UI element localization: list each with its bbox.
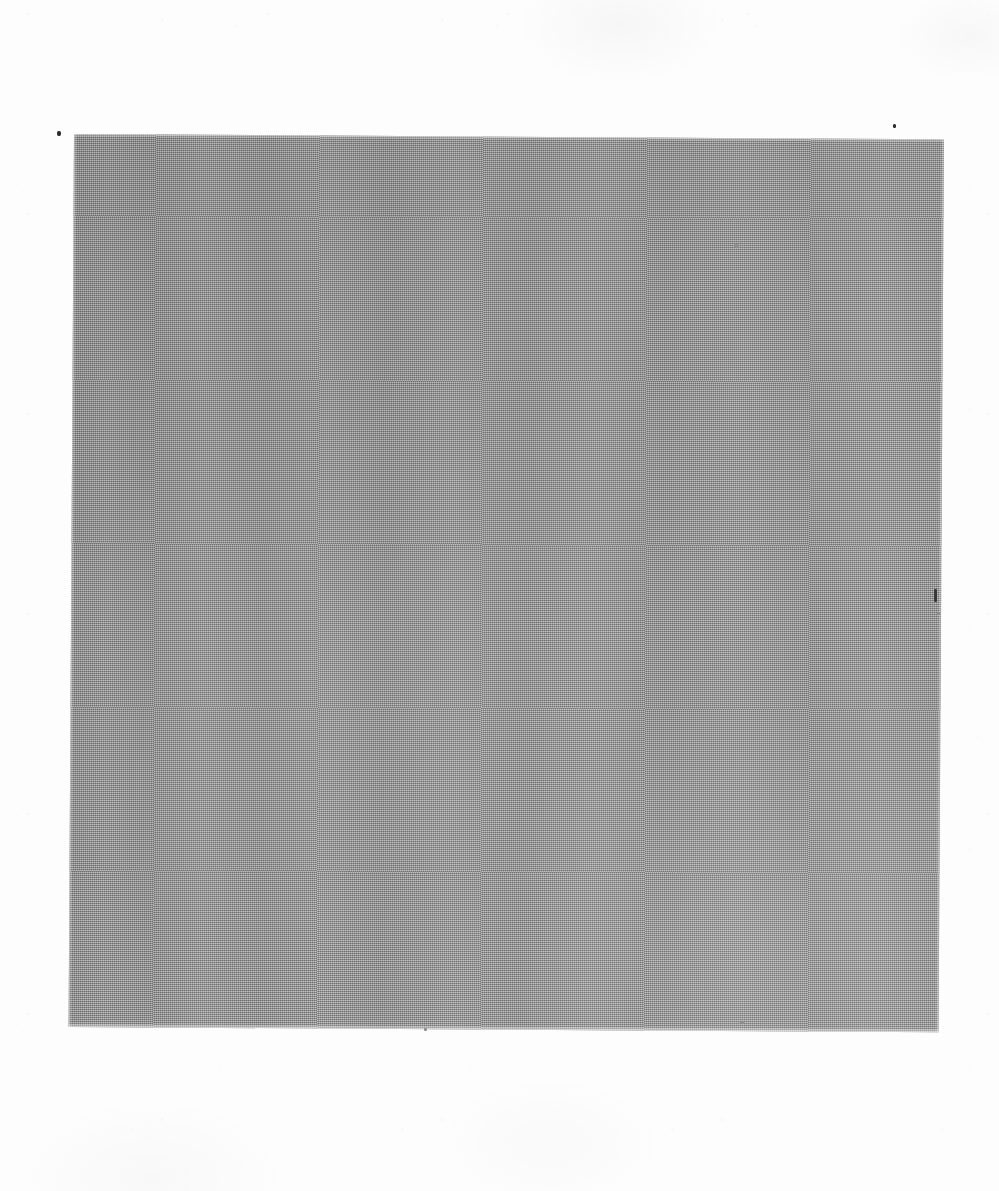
plate-edge-bleed (69, 134, 944, 1032)
scanned-page (0, 0, 999, 1191)
image-plate (69, 134, 944, 1032)
halftone-texture (69, 134, 944, 1032)
speck-top-right-margin (893, 124, 896, 128)
speck-left-margin (57, 131, 61, 136)
scan-streaks (69, 134, 944, 1032)
tonal-gradient (69, 134, 944, 1032)
